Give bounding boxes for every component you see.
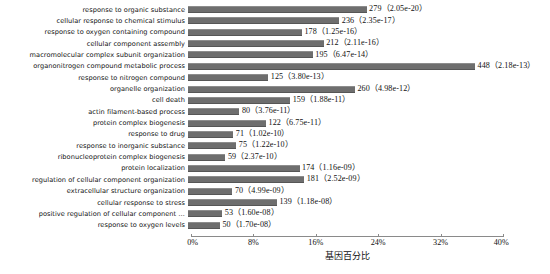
bar [188,154,225,161]
bar-value-label: 53（1.60e-08） [225,208,279,219]
category-label: response to inorganic substance [0,142,188,150]
bar-track: 159（1.88e-11） [188,95,550,106]
category-label: response to nitrogen compound [0,74,188,82]
bar-track: 448（2.18e-13） [188,61,550,72]
bar-row: cellular response to stress139（1.18e-08） [0,197,550,208]
bar-row: protein complex biogenesis122（6.75e-11） [0,117,550,128]
bar [188,86,355,93]
bar [188,165,300,172]
bar-value-label: 139（1.18e-08） [279,197,337,208]
category-label: protein complex biogenesis [0,119,188,127]
category-label: cellular response to stress [0,199,188,207]
bar-row: response to oxygen levels50（1.70e-08） [0,220,550,231]
category-label: protein localization [0,164,188,172]
bar-track: 212（2.11e-16） [188,38,550,49]
bar-value-label: 236（2.35e-17） [342,16,400,27]
category-label: actin filament-based process [0,108,188,116]
bar [188,108,239,115]
bar [188,199,277,206]
bar-row: response to oxygen containing compound17… [0,27,550,38]
bar-row: response to nitrogen compound125（3.80e-1… [0,72,550,83]
bar-row: cell death159（1.88e-11） [0,95,550,106]
bar-value-label: 279（2.05e-20） [369,4,427,15]
x-axis-tick [253,234,254,237]
x-axis-tick [378,234,379,237]
x-axis-tick [316,234,317,237]
bar [188,176,304,183]
bar-value-label: 125（3.80e-13） [271,72,329,83]
x-axis-tick-label: 0% [187,238,198,248]
bar [188,210,222,217]
category-label: positive regulation of cellular componen… [0,210,188,218]
x-axis-tick [191,234,192,237]
bar-track: 53（1.60e-08） [188,208,550,219]
bar-track: 236（2.35e-17） [188,15,550,26]
bar-value-label: 75（1.22e-10） [239,140,293,151]
bar-value-label: 174（1.16e-09） [302,163,360,174]
category-label: response to oxygen containing compound [0,28,188,36]
bar [188,17,339,24]
x-axis-tick-label: 8% [248,238,259,248]
category-label: response to drug [0,130,188,138]
category-label: macromolecular complex subunit organizat… [0,51,188,59]
bar [188,97,290,104]
bar-value-label: 50（1.70e-08） [222,220,276,231]
bar [188,40,324,47]
x-axis-tick-label: 32% [433,238,448,248]
bar-row: organelle organization260（4.98e-12） [0,83,550,94]
bar-track: 279（2.05e-20） [188,4,550,15]
bar-track: 50（1.70e-08） [188,220,550,231]
bar-value-label: 448（2.18e-13） [478,61,536,72]
x-axis-tick-label: 16% [308,238,323,248]
x-axis: 基因百分比 0%8%16%24%32%40% [0,236,550,274]
category-label: cellular component assembly [0,40,188,48]
bar-track: 70（4.99e-09） [188,186,550,197]
bar-value-label: 260（4.98e-12） [357,84,415,95]
bar-row: extracellular structure organization70（4… [0,186,550,197]
bar-row: ribonucleoprotein complex biogenesis59（2… [0,151,550,162]
bar-value-label: 122（6.75e-11） [269,118,327,129]
plot-area: response to organic substance279（2.05e-2… [0,4,550,236]
category-label: regulation of cellular component organiz… [0,176,188,184]
bar [188,188,232,195]
category-label: response to organic substance [0,6,188,14]
bar-track: 122（6.75e-11） [188,117,550,128]
bar-row: cellular response to chemical stimulus23… [0,15,550,26]
bar-row: response to inorganic substance75（1.22e-… [0,140,550,151]
bar-value-label: 59（2.37e-10） [228,152,282,163]
bar-row: positive regulation of cellular componen… [0,208,550,219]
bar-row: macromolecular complex subunit organizat… [0,49,550,60]
bar-track: 71（1.02e-10） [188,129,550,140]
bar-track: 80（3.76e-11） [188,106,550,117]
category-label: organelle organization [0,85,188,93]
bar-track: 174（1.16e-09） [188,163,550,174]
bar-row: actin filament-based process80（3.76e-11） [0,106,550,117]
bar [188,222,220,229]
bar-track: 260（4.98e-12） [188,83,550,94]
bar-track: 125（3.80e-13） [188,72,550,83]
go-enrichment-bar-chart: response to organic substance279（2.05e-2… [0,0,550,274]
bar-value-label: 212（2.11e-16） [326,38,384,49]
bar-value-label: 181（2.52e-09） [307,174,365,185]
category-label: organonitrogen compound metabolic proces… [0,62,188,70]
bar-track: 178（1.25e-16） [188,27,550,38]
category-label: ribonucleoprotein complex biogenesis [0,153,188,161]
bar-value-label: 178（1.25e-16） [304,27,362,38]
bar-value-label: 159（1.88e-11） [293,95,351,106]
x-axis-tick [441,234,442,237]
bar-row: response to organic substance279（2.05e-2… [0,4,550,15]
x-axis-title: 基因百分比 [191,250,503,262]
bar [188,131,233,138]
bar-value-label: 195（6.47e-14） [315,50,373,61]
bar [188,142,236,149]
bar-track: 75（1.22e-10） [188,140,550,151]
bar-value-label: 80（3.76e-11） [242,106,296,117]
category-label: extracellular structure organization [0,187,188,195]
bar-row: cellular component assembly212（2.11e-16） [0,38,550,49]
bar-row: protein localization174（1.16e-09） [0,163,550,174]
category-label: cell death [0,96,188,104]
bar-track: 139（1.18e-08） [188,197,550,208]
bar [188,63,475,70]
x-axis-line [191,236,503,237]
bar-row: organonitrogen compound metabolic proces… [0,61,550,72]
